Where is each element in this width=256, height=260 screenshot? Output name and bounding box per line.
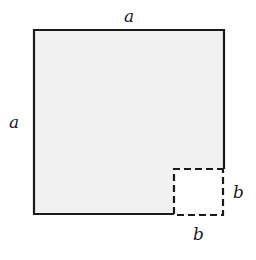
label-bottom-b: b <box>193 224 204 244</box>
shaded-region <box>34 30 224 214</box>
label-top-a: a <box>124 6 134 26</box>
square-diagram: a a b b <box>0 0 256 260</box>
label-right-b: b <box>233 182 244 202</box>
label-left-a: a <box>9 112 19 132</box>
small-square-dashed-outline <box>174 169 224 215</box>
